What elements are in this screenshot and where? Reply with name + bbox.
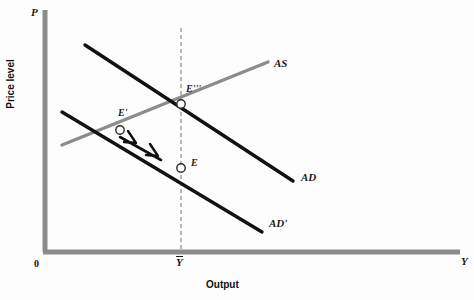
- point-e: [177, 164, 185, 172]
- potential-output-label-text: Y: [176, 256, 183, 269]
- y-axis-title: Price level: [6, 49, 16, 119]
- as-curve: [62, 62, 268, 145]
- as-curve-label: AS: [274, 58, 287, 69]
- ad-prime-curve-label: AD': [269, 218, 287, 229]
- potential-output-label: Y: [176, 256, 183, 269]
- point-e-triple-prime: [177, 100, 185, 108]
- x-axis-symbol: Y: [461, 256, 468, 267]
- diagram-canvas: [0, 0, 474, 300]
- point-e-prime-label: E': [118, 108, 127, 118]
- point-e-prime: [116, 126, 124, 134]
- point-e-label: E: [191, 158, 198, 168]
- point-e-triple-prime-label: E''': [186, 84, 201, 94]
- y-axis-symbol: P: [31, 7, 38, 18]
- origin-label: 0: [34, 259, 39, 269]
- adjustment-arrow: [120, 131, 161, 160]
- y-axis-title-wrap: Price level: [6, 49, 20, 119]
- ad-as-diagram: P Y 0 Price level Output Y AS AD AD' E''…: [0, 0, 474, 300]
- x-axis-title: Output: [206, 280, 239, 290]
- ad-prime-curve: [62, 112, 262, 232]
- ad-curve-label: AD: [301, 172, 316, 183]
